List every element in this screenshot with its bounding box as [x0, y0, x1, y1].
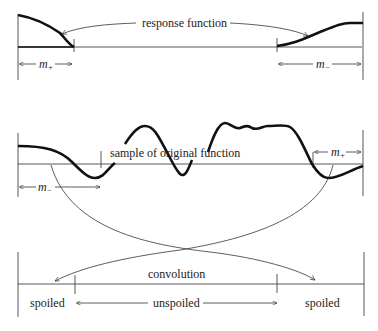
unspoiled-label: unspoiled	[153, 296, 200, 310]
sample-label: sample of original function	[110, 146, 240, 160]
m-plus-label-top: m+	[39, 57, 53, 72]
m-plus-label-middle: m+	[331, 145, 345, 160]
convolution-panel: convolution spoiled unspoiled spoiled	[18, 252, 364, 317]
response-function-label: response function	[142, 16, 227, 30]
sample-function-panel: sample of original function m− m+	[18, 123, 363, 197]
spoiled-right-label: spoiled	[305, 296, 340, 310]
response-function-panel: response function m+ m−	[18, 12, 363, 80]
convolution-diagram: response function m+ m− sample of origin…	[0, 0, 378, 331]
spoiled-left-label: spoiled	[30, 296, 65, 310]
response-curve-left	[18, 15, 74, 47]
m-minus-label-middle: m−	[38, 180, 52, 195]
crossing-arrow-right-to-left	[55, 165, 333, 281]
convolution-label: convolution	[148, 267, 205, 281]
m-minus-label-top: m−	[316, 57, 330, 72]
response-curve-right	[277, 23, 363, 46]
crossing-arrow-left-to-right	[51, 165, 315, 280]
